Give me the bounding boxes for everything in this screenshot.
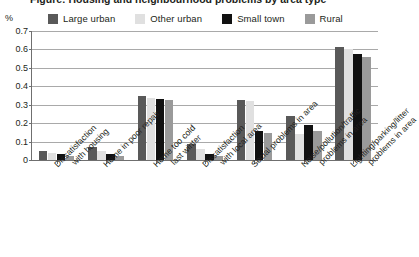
bar <box>295 134 304 160</box>
chart-legend: Large urbanOther urbanSmall townRural <box>48 12 343 25</box>
legend-swatch-icon <box>48 14 58 24</box>
legend-item-1: Other urban <box>135 13 202 24</box>
legend-swatch-icon <box>222 14 232 24</box>
chart-title-cropped: Figure: Housing and neighbourhood proble… <box>0 0 383 9</box>
y-axis-tick-label: 0.5 <box>15 63 28 73</box>
legend-item-2: Small town <box>222 13 284 24</box>
y-axis-unit-label: % <box>5 13 13 23</box>
legend-item-3: Rural <box>305 13 343 24</box>
legend-label: Other urban <box>150 13 202 24</box>
y-axis-tick-label: 0.6 <box>15 44 28 54</box>
legend-label: Rural <box>320 13 343 24</box>
legend-swatch-icon <box>305 14 315 24</box>
legend-label: Small town <box>237 13 284 24</box>
bar <box>39 151 48 160</box>
y-axis-tick-label: 0.2 <box>15 118 28 128</box>
y-axis-tick-label: 0.1 <box>15 137 28 147</box>
chart-title: Figure: Housing and neighbourhood proble… <box>30 0 326 5</box>
legend-swatch-icon <box>135 14 145 24</box>
legend-label: Large urban <box>63 13 115 24</box>
y-axis-tick-label: 0.7 <box>15 26 28 36</box>
y-axis-tick-label: 0.3 <box>15 100 28 110</box>
legend-item-0: Large urban <box>48 13 115 24</box>
y-axis-tick-mark <box>29 160 32 161</box>
y-axis-tick-label: 0.4 <box>15 81 28 91</box>
x-axis-labels: Dissatisfactionwith housingHome in poor … <box>31 162 377 257</box>
y-axis-tick-label: 0 <box>23 155 28 165</box>
